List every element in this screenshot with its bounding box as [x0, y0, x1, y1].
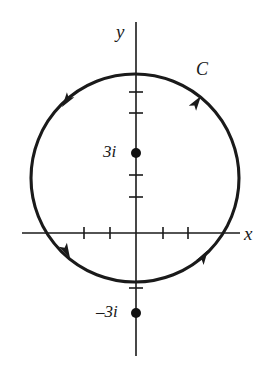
contour-diagram-svg [0, 0, 271, 375]
point-minus-3i-dot [131, 308, 141, 318]
y-axis-label: y [116, 22, 124, 41]
figure-canvas: y x C 3i –3i [0, 0, 271, 375]
point-label-minus-3i: –3i [96, 303, 118, 320]
point-3i-dot [131, 148, 141, 158]
point-label-3i: 3i [103, 143, 116, 160]
contour-circle-c [31, 74, 239, 282]
x-axis-label: x [244, 224, 252, 243]
contour-label-c: C [196, 60, 208, 78]
